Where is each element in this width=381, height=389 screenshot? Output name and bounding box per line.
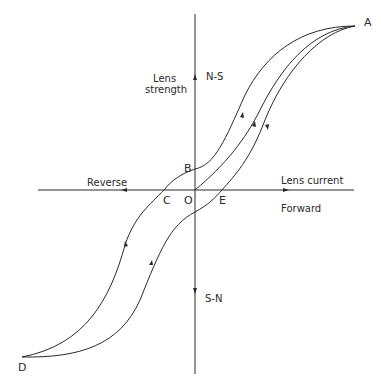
positive-horizontal-label: Forward: [281, 203, 321, 214]
point-a-label: A: [364, 16, 372, 29]
arrow-right-icon: [283, 188, 289, 192]
point-e-label: E: [219, 194, 226, 207]
positive-vertical-label: N-S: [206, 71, 223, 82]
negative-horizontal-label: Reverse: [87, 177, 127, 188]
horizontal-axis-title: Lens current: [281, 175, 343, 186]
curve-initial-o-to-a: [195, 26, 355, 190]
point-o-label: O: [184, 194, 193, 207]
curve-arrow-icon: [149, 260, 153, 265]
curve-arrow-icon: [240, 112, 244, 118]
arrow-up-icon: [193, 74, 197, 80]
point-d-label: D: [18, 361, 26, 374]
point-c-label: C: [163, 194, 171, 207]
curve-arrow-icon: [265, 124, 269, 130]
arrow-down-icon: [193, 288, 197, 294]
curve-descending-a-to-d: [22, 26, 355, 357]
curve-ascending-d-to-a: [22, 26, 355, 357]
hysteresis-diagram: Lens strength N-S S-N Lens current Forwa…: [0, 0, 381, 389]
negative-vertical-label: S-N: [205, 293, 222, 304]
vertical-axis-title-line2: strength: [145, 84, 187, 95]
arrow-left-icon: [121, 188, 127, 192]
vertical-axis-title-line1: Lens: [153, 73, 176, 84]
point-b-label: B: [184, 162, 192, 175]
